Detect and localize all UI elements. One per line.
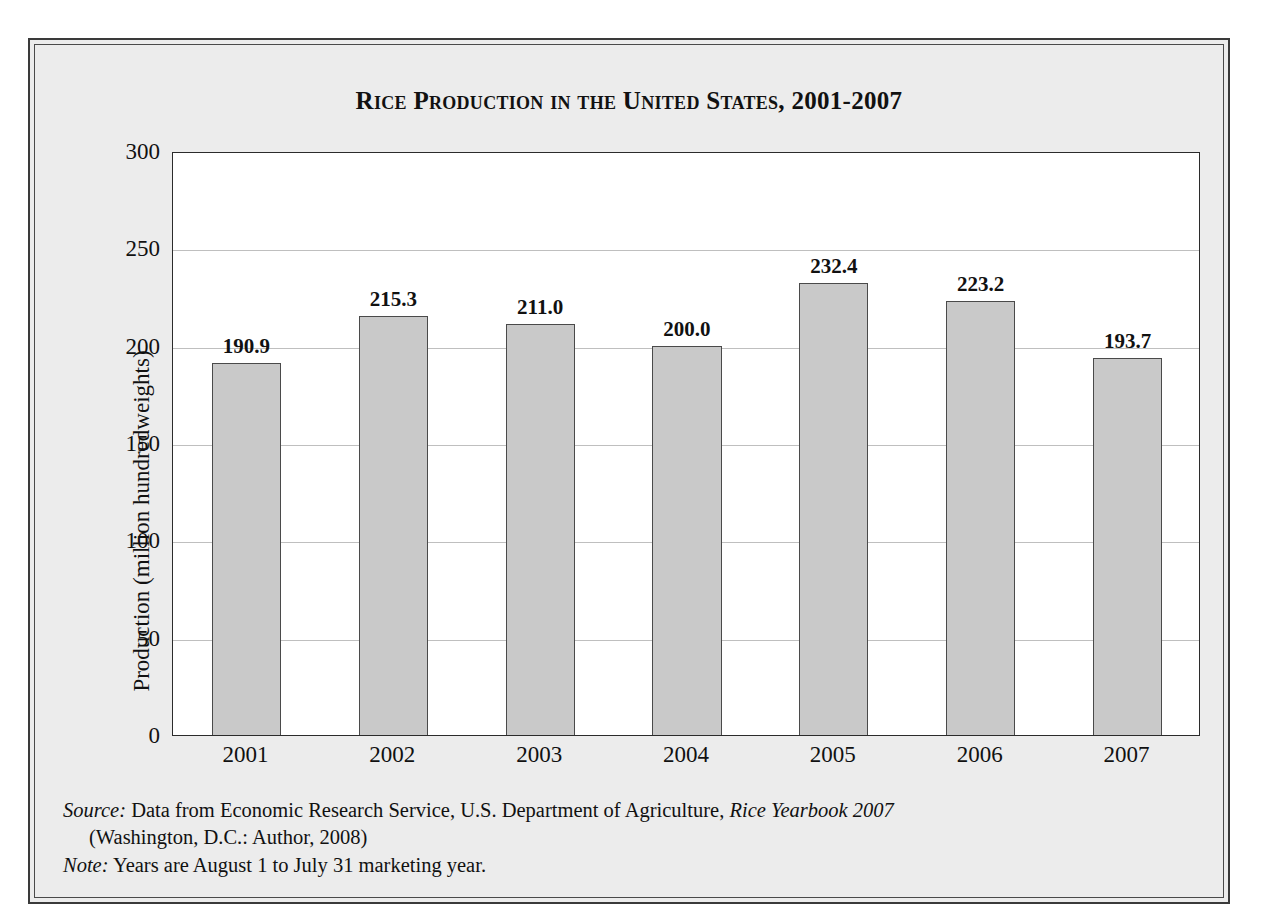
- bar-2002[interactable]: [359, 316, 428, 735]
- chart-title: Rice Production in the United States, 20…: [35, 87, 1223, 115]
- x-tick-2005: 2005: [759, 742, 906, 768]
- bar-value-label-2005: 232.4: [760, 254, 907, 279]
- y-tick-300: 300: [126, 139, 173, 165]
- x-tick-2004: 2004: [613, 742, 760, 768]
- x-tick-2002: 2002: [319, 742, 466, 768]
- source-line-1: Source: Data from Economic Research Serv…: [63, 797, 1197, 824]
- bar-value-label-2006: 223.2: [907, 272, 1054, 297]
- plot-wrapper: 190.9215.3211.0200.0232.4223.2193.7: [172, 152, 1200, 736]
- y-axis-ticks: 050100150200250300: [62, 152, 172, 736]
- bar-2001[interactable]: [212, 363, 281, 735]
- bar-value-label-2007: 193.7: [1054, 329, 1200, 354]
- plot-area: 190.9215.3211.0200.0232.4223.2193.7: [172, 152, 1200, 736]
- note-label: Note:: [63, 854, 109, 876]
- y-tick-250: 250: [126, 236, 173, 262]
- source-label: Source:: [63, 799, 126, 821]
- source-publication-title: Rice Yearbook 2007: [729, 799, 893, 821]
- gridline-250: [173, 250, 1199, 251]
- bar-2003[interactable]: [506, 324, 575, 735]
- source-line-2: (Washington, D.C.: Author, 2008): [63, 824, 1197, 851]
- figure-inner-border: Rice Production in the United States, 20…: [34, 44, 1224, 898]
- bar-2007[interactable]: [1093, 358, 1162, 735]
- bar-value-label-2003: 211.0: [467, 295, 614, 320]
- bar-value-label-2004: 200.0: [614, 317, 761, 342]
- bar-value-label-2001: 190.9: [173, 334, 320, 359]
- x-tick-2007: 2007: [1053, 742, 1200, 768]
- note-text: Years are August 1 to July 31 marketing …: [109, 854, 487, 876]
- figure-notes: Source: Data from Economic Research Serv…: [63, 797, 1197, 879]
- y-tick-0: 0: [149, 723, 173, 749]
- figure-frame: Rice Production in the United States, 20…: [28, 38, 1230, 904]
- bar-2006[interactable]: [946, 301, 1015, 735]
- y-tick-150: 150: [126, 431, 173, 457]
- x-axis-ticks: 2001200220032004200520062007: [172, 742, 1200, 784]
- y-tick-200: 200: [126, 334, 173, 360]
- y-tick-50: 50: [137, 626, 172, 652]
- y-tick-100: 100: [126, 528, 173, 554]
- source-text: Data from Economic Research Service, U.S…: [126, 799, 729, 821]
- x-tick-2001: 2001: [172, 742, 319, 768]
- note-line: Note: Years are August 1 to July 31 mark…: [63, 852, 1197, 879]
- bar-value-label-2002: 215.3: [320, 287, 467, 312]
- bar-2004[interactable]: [652, 346, 721, 735]
- x-tick-2003: 2003: [466, 742, 613, 768]
- bar-2005[interactable]: [799, 283, 868, 735]
- x-tick-2006: 2006: [906, 742, 1053, 768]
